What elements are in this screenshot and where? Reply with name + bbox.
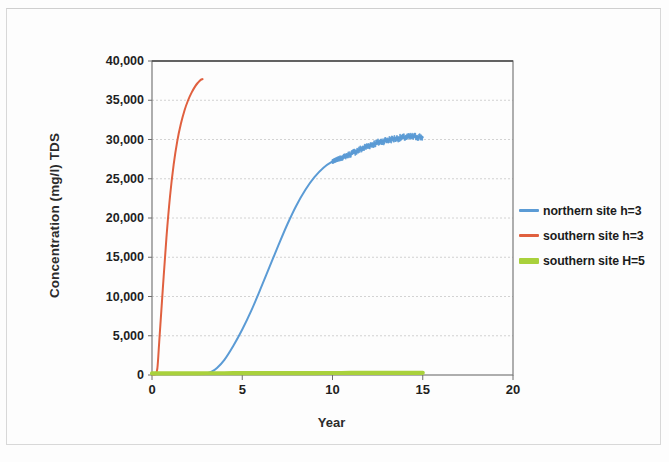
legend-item[interactable]: southern site h=3 (519, 223, 667, 248)
legend-color-swatch (519, 258, 539, 264)
legend-item[interactable]: southern site H=5 (519, 248, 667, 273)
legend-item[interactable]: northern site h=3 (519, 198, 667, 223)
legend-color-swatch (519, 234, 539, 237)
legend-color-swatch (519, 209, 539, 212)
series-0 (152, 134, 423, 375)
legend-item-label: southern site H=5 (543, 254, 645, 268)
legend-item-label: southern site h=3 (543, 229, 643, 243)
figure-root: Concentration (mg/l) TDS 05,00010,00015,… (0, 0, 669, 462)
chart-area: Concentration (mg/l) TDS 05,00010,00015,… (0, 0, 669, 462)
series-line (152, 137, 423, 375)
legend-item-label: northern site h=3 (543, 204, 641, 218)
series-1 (152, 79, 203, 374)
x-axis-title: Year (150, 415, 513, 430)
series-line (152, 373, 423, 374)
series-line (152, 79, 203, 374)
series-2 (152, 373, 423, 374)
chart-legend: northern site h=3southern site h=3southe… (519, 198, 667, 273)
